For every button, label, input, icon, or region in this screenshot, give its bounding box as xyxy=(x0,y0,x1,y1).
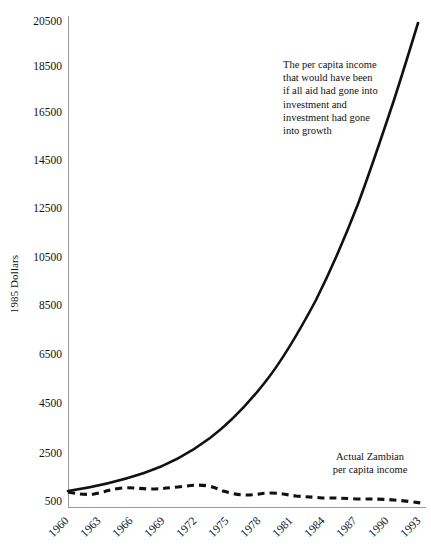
x-tick-label: 1993 xyxy=(399,515,423,539)
x-tick-label: 1984 xyxy=(303,515,327,539)
x-tick-label: 1972 xyxy=(175,515,199,539)
annotation-actual-income: Actual Zambian per capita income xyxy=(318,450,422,476)
x-tick-label: 1963 xyxy=(79,515,103,539)
x-tick-label: 1990 xyxy=(367,515,391,539)
x-tick-label: 1978 xyxy=(239,515,263,539)
chart-container: 20500 18500 16500 14500 12500 10500 8500… xyxy=(0,0,431,555)
annotation-projected-income: The per capita income that would have be… xyxy=(283,58,395,137)
x-tick-label: 1987 xyxy=(335,515,359,539)
x-tick-label: 1960 xyxy=(47,515,71,539)
x-tick-label: 1969 xyxy=(143,515,167,539)
x-tick-label: 1975 xyxy=(207,515,231,539)
x-tick-label: 1981 xyxy=(271,515,295,539)
x-tick-label: 1966 xyxy=(111,515,135,539)
